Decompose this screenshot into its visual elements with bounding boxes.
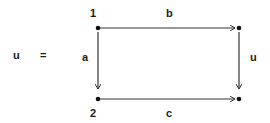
edge-a-label: a bbox=[82, 51, 89, 63]
node-2-label: 2 bbox=[90, 107, 96, 119]
edge-c-label: c bbox=[166, 107, 172, 119]
diagram-svg: u = 1 2 b a u c bbox=[0, 0, 270, 123]
equals-sign: = bbox=[40, 49, 46, 61]
commutative-diagram: u = 1 2 b a u c bbox=[0, 0, 270, 123]
node-4-dot bbox=[237, 97, 242, 102]
edge-b-label: b bbox=[166, 7, 173, 19]
node-1-label: 1 bbox=[90, 7, 96, 19]
node-1-dot bbox=[96, 26, 101, 31]
lhs-label: u bbox=[13, 49, 20, 61]
node-3-dot bbox=[237, 26, 242, 31]
node-2-dot bbox=[96, 97, 101, 102]
edge-u-label: u bbox=[250, 51, 257, 63]
